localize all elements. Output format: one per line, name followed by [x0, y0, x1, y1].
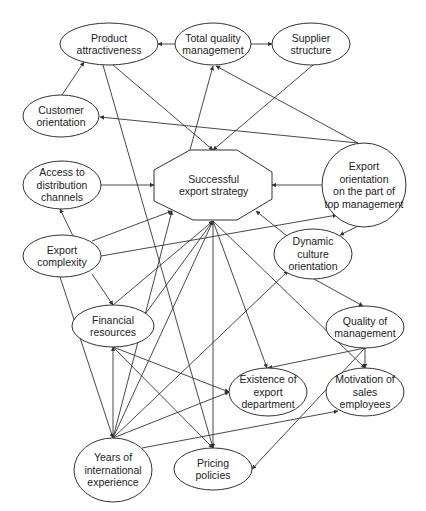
node-label-line: policies [195, 469, 230, 481]
edge-export-complexity-to-successful-export-strategy [92, 211, 172, 241]
node-access-distribution: Access todistributionchannels [23, 161, 101, 209]
edge-export-complexity-to-access-distribution [60, 209, 73, 236]
node-label-line: Quality of [343, 315, 387, 327]
node-label-line: on the part of [333, 185, 395, 197]
edge-export-orientation-top-mgmt-to-customer-orientation [100, 117, 358, 143]
node-supplier-structure: Supplierstructure [272, 23, 350, 65]
edge-years-international-experience-to-motivation-sales-employees [142, 411, 338, 448]
node-label-line: management [334, 327, 395, 339]
node-label-line: Successful [188, 173, 239, 185]
node-label-line: department [241, 398, 294, 410]
node-customer-orientation: Customerorientation [23, 95, 99, 137]
node-label-line: Pricing [197, 457, 229, 469]
node-label-line: Export [47, 244, 77, 256]
edge-financial-resources-to-pricing-policies [113, 347, 213, 448]
edge-dynamic-culture-orientation-to-quality-of-management [314, 279, 363, 306]
node-label-line: Total quality [185, 32, 241, 44]
node-financial-resources: Financialresources [72, 305, 154, 347]
node-label-line: complexity [37, 256, 87, 268]
node-label-line: structure [291, 44, 332, 56]
node-label-line: export [253, 386, 282, 398]
node-label-line: Access to [39, 166, 85, 178]
node-total-quality-management: Total qualitymanagement [175, 23, 251, 65]
node-motivation-sales-employees: Motivation ofsalesemployees [326, 368, 404, 416]
node-label-line: sales [353, 386, 378, 398]
nodes: ProductattractivenessTotal qualitymanage… [23, 23, 406, 502]
node-label-line: management [182, 44, 243, 56]
edge-export-complexity-to-financial-resources [92, 274, 113, 305]
node-quality-of-management: Quality ofmanagement [326, 306, 404, 348]
node-label-line: Supplier [292, 32, 331, 44]
edge-export-orientation-top-mgmt-to-total-quality-management [216, 66, 358, 143]
node-label-line: orientation [288, 260, 337, 272]
node-dynamic-culture-orientation: Dynamiccultureorientation [274, 229, 352, 279]
edge-successful-export-strategy-to-total-quality-management [190, 66, 213, 150]
edge-financial-resources-to-successful-export-strategy [113, 221, 213, 305]
edge-export-orientation-top-mgmt-to-dynamic-culture-orientation [340, 226, 358, 235]
node-label-line: Customer [38, 104, 84, 116]
node-export-complexity: Exportcomplexity [23, 235, 101, 277]
node-label-line: attractiveness [77, 44, 142, 56]
node-label-line: international [84, 464, 141, 476]
node-label-line: experience [87, 476, 139, 488]
node-successful-export-strategy: Successfulexport strategy [154, 150, 272, 220]
edge-dynamic-culture-orientation-to-successful-export-strategy [256, 211, 287, 236]
edge-product-attractiveness-to-successful-export-strategy [113, 65, 213, 150]
node-label-line: Existence of [239, 373, 296, 385]
edge-customer-orientation-to-product-attractiveness [62, 62, 84, 95]
node-product-attractiveness: Productattractiveness [60, 23, 158, 65]
node-label-line: employees [340, 398, 391, 410]
node-label-line: culture [297, 248, 329, 260]
node-label-line: distribution [37, 179, 88, 191]
node-label-line: channels [41, 191, 83, 203]
edge-quality-of-management-to-existence-export-department [268, 348, 365, 368]
node-label-line: Motivation of [335, 373, 395, 385]
node-existence-export-department: Existence ofexportdepartment [229, 368, 307, 416]
node-pricing-policies: Pricingpolicies [174, 448, 252, 490]
node-label-line: Product [91, 32, 127, 44]
node-label-line: export strategy [179, 185, 249, 197]
edge-years-international-experience-to-existence-export-department [113, 392, 229, 438]
edge-successful-export-strategy-to-existence-export-department [213, 221, 267, 368]
node-years-international-experience: Years ofinternationalexperience [74, 438, 152, 502]
node-label-line: resources [90, 326, 136, 338]
edge-export-complexity-to-years-international-experience [60, 277, 113, 438]
node-label-line: orientation [339, 173, 388, 185]
causal-diagram: ProductattractivenessTotal qualitymanage… [0, 0, 426, 511]
node-label-line: Years of [94, 451, 132, 463]
node-label-line: Financial [92, 314, 134, 326]
node-label-line: Export [349, 160, 379, 172]
node-export-orientation-top-mgmt: Exportorientationon the part oftop manag… [322, 143, 406, 227]
node-label-line: Dynamic [293, 235, 334, 247]
edge-financial-resources-to-successful-export-strategy [146, 221, 213, 313]
node-label-line: top management [325, 198, 404, 210]
node-label-line: orientation [36, 116, 85, 128]
